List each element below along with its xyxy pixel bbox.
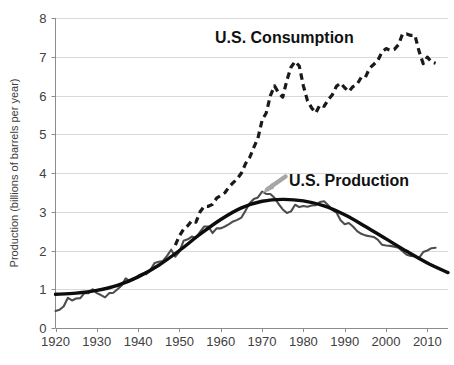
y-tick-label: 7 <box>39 50 46 65</box>
y-tick-label: 5 <box>39 127 46 142</box>
x-tick-label: 1970 <box>248 334 277 349</box>
chart-container: 876543210 192019301940195019601970198019… <box>0 0 454 365</box>
y-tick-label: 4 <box>39 166 46 181</box>
x-tick-label: 2010 <box>413 334 442 349</box>
x-tick-label: 1980 <box>289 334 318 349</box>
x-tick-label: 1930 <box>82 334 111 349</box>
x-tick-label: 1960 <box>206 334 235 349</box>
x-tick-label: 1950 <box>165 334 194 349</box>
x-tick-label: 1940 <box>124 334 153 349</box>
x-tick-label: 2000 <box>372 334 401 349</box>
y-tick-label: 8 <box>39 11 46 26</box>
bottom-caption-strip <box>0 355 454 365</box>
y-tick-label: 3 <box>39 205 46 220</box>
y-tick-label: 2 <box>39 244 46 259</box>
x-tick-label: 1920 <box>41 334 70 349</box>
y-tick-label: 1 <box>39 282 46 297</box>
consumption-label: U.S. Consumption <box>215 29 354 46</box>
x-tick-label: 1990 <box>330 334 359 349</box>
oil-production-consumption-chart: 876543210 192019301940195019601970198019… <box>0 0 454 365</box>
y-axis-title: Production (billions of barrels per year… <box>8 79 20 268</box>
y-tick-label: 6 <box>39 89 46 104</box>
production-label: U.S. Production <box>289 172 409 189</box>
